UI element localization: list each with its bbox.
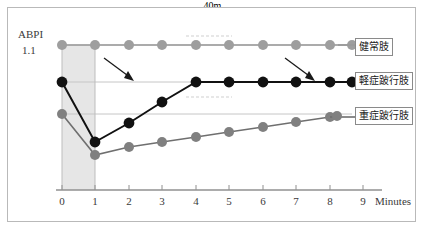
series-markers-mild [57,77,358,148]
y-axis-title: ABPI [18,28,43,40]
y-axis-top-tick-label: 1.1 [22,44,36,56]
x-tick-label-3: 3 [153,196,171,207]
x-tick-label-7: 7 [287,196,305,207]
x-tick-label-9: 9 [354,196,372,207]
shaded-walking-region [62,45,95,190]
x-axis-unit-label: Minutes [375,196,411,207]
x-tick-label-2: 2 [120,196,138,207]
recovery-arrow-right-head [305,71,315,81]
x-tick-label-1: 1 [86,196,104,207]
legend-item-severe-claudication[interactable]: 重症跛行肢 [355,107,413,125]
recovery-arrow-left-head [124,71,134,81]
x-axis-ticks [62,185,363,190]
x-tick-label-5: 5 [220,196,238,207]
x-tick-label-6: 6 [254,196,272,207]
x-tick-label-4: 4 [187,196,205,207]
x-tick-label-8: 8 [321,196,339,207]
figure-container: ABPI 1.1 40m 歩行 0 1 2 3 4 5 6 7 8 9 Minu… [0,0,425,231]
series-markers-severe [57,109,335,160]
legend-item-healthy[interactable]: 健常肢 [355,38,393,56]
x-tick-label-0: 0 [53,196,71,207]
annotation-arrows [104,58,315,81]
series-line-mild [62,82,352,142]
legend-item-mild-claudication[interactable]: 軽症跛行肢 [355,72,413,90]
legend-marker-severe [332,111,342,121]
